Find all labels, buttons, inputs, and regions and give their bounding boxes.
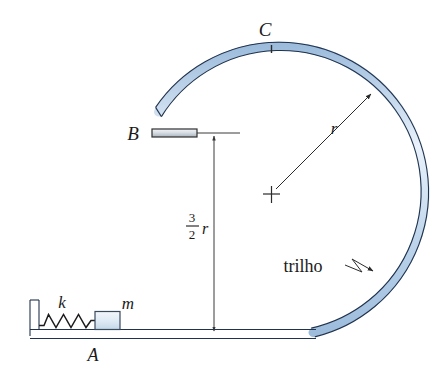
label-point-c: C: [259, 19, 272, 40]
diagram-canvas: C B A r k m trilho 3 2 r: [0, 0, 439, 376]
fraction-numerator: 3: [189, 210, 196, 225]
label-point-a: A: [87, 345, 100, 365]
physics-diagram: C B A r k m trilho 3 2 r: [0, 0, 439, 376]
loop-track-path: [159, 46, 425, 332]
radius-arrow: [276, 94, 371, 189]
platform-b-assembly: [152, 129, 197, 137]
spring-coil: [39, 315, 95, 328]
block-mass: [95, 312, 120, 330]
spring-block-assembly: [39, 312, 120, 330]
label-height-fraction: 3 2 r: [186, 210, 209, 242]
platform-b: [152, 129, 197, 137]
label-point-b: B: [127, 123, 139, 144]
trilho-leader-line: [345, 259, 373, 272]
track-assembly: [30, 42, 429, 338]
fraction-unit: r: [202, 220, 209, 237]
trilho-leader: [345, 259, 373, 272]
fraction-denominator: 2: [189, 227, 196, 242]
radius-annotation: [263, 94, 371, 203]
label-radius: r: [331, 119, 338, 138]
label-mass: m: [122, 294, 134, 313]
label-trilho: trilho: [284, 256, 323, 276]
label-spring-constant: k: [58, 293, 66, 312]
